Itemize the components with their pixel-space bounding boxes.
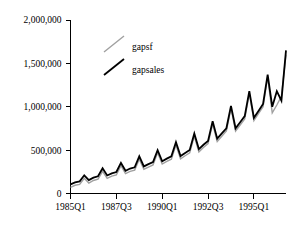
- y-tick-label-0: 0: [57, 189, 62, 199]
- x-tick-label-2: 1990Q1: [147, 202, 178, 212]
- y-tick-label-4: 2,000,000: [24, 15, 62, 25]
- y-tick-label-1: 500,000: [31, 146, 62, 156]
- chart-page: 0500,0001,000,0001,500,0002,000,000 1985…: [0, 0, 306, 226]
- line-chart: 0500,0001,000,0001,500,0002,000,000 1985…: [0, 0, 306, 226]
- x-tick-label-0: 1985Q1: [55, 202, 86, 212]
- x-tick-label-1: 1987Q3: [101, 202, 132, 212]
- legend-label-gapsf: gapsf: [132, 42, 153, 52]
- y-tick-label-2: 1,000,000: [24, 102, 62, 112]
- chart-background: [0, 0, 306, 226]
- legend-label-gapsales: gapsales: [132, 65, 164, 75]
- y-tick-label-3: 1,500,000: [24, 59, 62, 69]
- x-tick-label-3: 1992Q3: [193, 202, 224, 212]
- x-tick-label-4: 1995Q1: [239, 202, 270, 212]
